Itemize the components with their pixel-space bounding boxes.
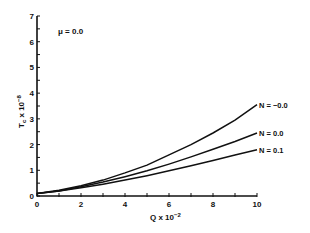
series-line <box>37 105 257 194</box>
y-tick-label: 1 <box>30 166 35 175</box>
series-line <box>37 133 257 193</box>
x-tick-label: 0 <box>35 200 40 209</box>
mu-annotation: μ = 0.0 <box>58 27 84 36</box>
y-axis-label: Tc x 10−8 <box>16 94 27 128</box>
y-tick-label: 7 <box>30 12 35 21</box>
chart-canvas: 024681001234567μ = 0.0Q x 10−2Tc x 10−8N… <box>0 0 310 233</box>
y-tick-label: 4 <box>30 89 35 98</box>
x-axis-label: Q x 10−2 <box>150 212 182 222</box>
x-tick-label: 4 <box>123 200 128 209</box>
y-tick-label: 2 <box>30 141 35 150</box>
y-tick-label: 5 <box>30 63 35 72</box>
x-tick-label: 10 <box>253 200 262 209</box>
x-tick-label: 2 <box>79 200 84 209</box>
y-tick-label: 0 <box>30 192 35 201</box>
x-tick-label: 6 <box>167 200 172 209</box>
series-label: N = 0.0 <box>259 129 283 138</box>
x-tick-label: 8 <box>211 200 216 209</box>
series-label: N = −0.0 <box>259 101 288 110</box>
y-tick-label: 3 <box>30 115 35 124</box>
y-tick-label: 6 <box>30 38 35 47</box>
series-label: N = 0.1 <box>259 146 283 155</box>
